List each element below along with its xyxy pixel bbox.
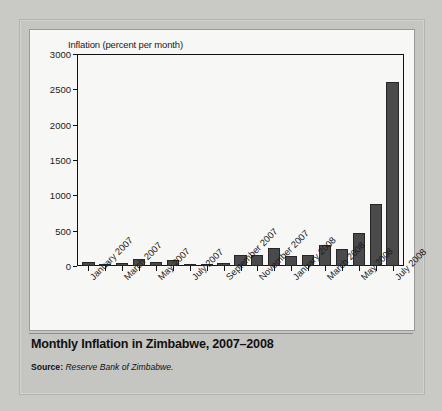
bar-slot xyxy=(232,54,249,266)
figure-caption: Monthly Inflation in Zimbabwe, 2007–2008… xyxy=(29,337,413,372)
x-axis-tick-mark xyxy=(190,266,191,271)
bar-slot xyxy=(350,54,367,266)
bar-slot xyxy=(198,54,215,266)
x-axis-tick-mark xyxy=(376,266,377,271)
bar-slot xyxy=(148,54,165,266)
bar-slot xyxy=(114,54,131,266)
x-axis-tick-mark xyxy=(207,266,208,271)
x-axis-tick-mark xyxy=(156,266,157,271)
bar-slot xyxy=(164,54,181,266)
figure-source: Source: Reserve Bank of Zimbabwe. xyxy=(31,362,413,372)
x-axis-tick-mark xyxy=(393,266,394,271)
x-axis-tick-mark xyxy=(291,266,292,271)
x-axis-tick-mark xyxy=(359,266,360,271)
plot-area: 050010001500200025003000 January 2007Mar… xyxy=(77,54,404,266)
x-axis-tick-mark xyxy=(342,266,343,271)
bar-slot xyxy=(367,54,384,266)
x-axis-tick-mark xyxy=(139,266,140,271)
bar-slot xyxy=(333,54,350,266)
x-axis-tick-mark xyxy=(325,266,326,271)
bar-slot xyxy=(131,54,148,266)
x-axis-tick-mark xyxy=(224,266,225,271)
y-axis-tick-mark xyxy=(73,266,77,267)
figure-container: Inflation (percent per month) 0500100015… xyxy=(19,19,425,395)
x-axis-tick-mark xyxy=(88,266,89,271)
bar-slot xyxy=(215,54,232,266)
x-axis-tick-mark xyxy=(105,266,106,271)
bar-slot xyxy=(80,54,97,266)
source-label: Source: xyxy=(31,362,63,372)
x-axis-tick-mark xyxy=(122,266,123,271)
bar-slot xyxy=(97,54,114,266)
bar-slot xyxy=(384,54,401,266)
x-axis-tick-mark xyxy=(308,266,309,271)
x-axis-tick-mark xyxy=(241,266,242,271)
y-axis-title: Inflation (percent per month) xyxy=(68,39,183,50)
figure-title: Monthly Inflation in Zimbabwe, 2007–2008 xyxy=(31,337,413,351)
x-axis-tick-mark xyxy=(274,266,275,271)
caption-divider xyxy=(29,333,413,334)
bar xyxy=(386,82,398,266)
bar-series xyxy=(77,54,404,266)
source-text: Reserve Bank of Zimbabwe. xyxy=(65,362,173,372)
chart-panel: Inflation (percent per month) 0500100015… xyxy=(29,29,415,331)
bar-slot xyxy=(181,54,198,266)
x-axis-tick-mark xyxy=(257,266,258,271)
x-axis-tick-mark xyxy=(173,266,174,271)
